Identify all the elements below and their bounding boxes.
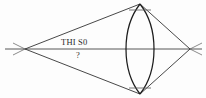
object-distance-label: THI S0 bbox=[61, 38, 87, 47]
unknown-distance-label: ? bbox=[76, 51, 80, 60]
incident-ray-lower-line bbox=[25, 49, 140, 94]
refracted-ray-lower-line bbox=[140, 49, 190, 94]
axis-left-tip-lower bbox=[13, 49, 25, 55]
ray-diagram-canvas bbox=[0, 0, 206, 98]
refracted-ray-upper-line bbox=[140, 4, 190, 49]
axis-left-tip-upper bbox=[13, 43, 25, 49]
axis-right-tip-upper bbox=[190, 43, 202, 49]
axis-right-tip-lower bbox=[190, 49, 202, 55]
thin-lens-ray-diagram: THI S0 ? bbox=[0, 0, 206, 98]
